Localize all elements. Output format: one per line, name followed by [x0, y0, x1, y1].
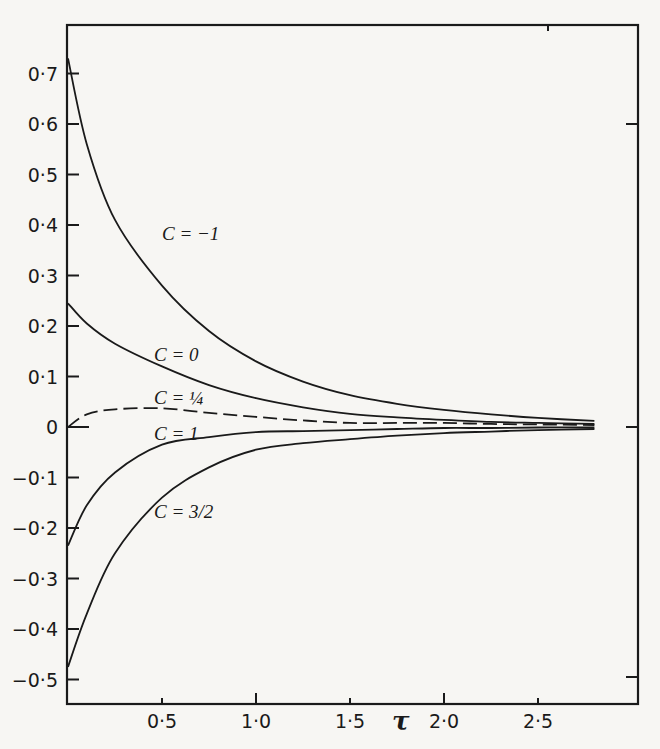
curve-c-three-halves	[68, 429, 594, 667]
line-chart: 0·70·60·50·40·30·20·10−0·1−0·2−0·3−0·4−0…	[0, 0, 660, 749]
curve-label: C = 3/2	[154, 501, 214, 522]
y-tick-label: 0·7	[28, 63, 58, 85]
x-tick-label: 0·5	[147, 710, 177, 732]
curve-c-0	[68, 303, 594, 424]
y-tick-label: −0·1	[12, 467, 58, 489]
curve-labels: C = −1C = 0C = ¼C = 1C = 3/2	[154, 223, 219, 522]
y-tick-label: −0·4	[12, 618, 58, 640]
y-tick-label: 0	[46, 416, 58, 438]
curve-label: C = 0	[154, 344, 199, 365]
curve-c-1	[68, 427, 594, 545]
y-tick-label: 0·4	[28, 214, 58, 236]
y-tick-label: 0·5	[28, 164, 58, 186]
y-tick-label: 0·1	[28, 366, 58, 388]
x-axis-ticks: 0·51·01·52·02·5	[147, 25, 553, 732]
y-tick-label: 0·3	[28, 265, 58, 287]
x-tick-label: 2·0	[429, 710, 459, 732]
y-tick-label: −0·5	[12, 669, 58, 691]
curve-label: C = ¼	[154, 387, 203, 408]
curve-label: C = −1	[162, 223, 219, 244]
y-tick-label: −0·2	[12, 517, 58, 539]
curves	[68, 58, 594, 667]
x-axis-label: τ	[392, 706, 410, 736]
curve-c-minus-1	[68, 58, 594, 421]
plot-frame	[67, 25, 638, 704]
curve-label: C = 1	[154, 423, 199, 444]
y-tick-label: −0·3	[12, 568, 58, 590]
x-tick-label: 1·5	[335, 710, 365, 732]
x-tick-label: 2·5	[523, 710, 553, 732]
y-tick-label: 0·6	[28, 113, 58, 135]
y-tick-label: 0·2	[28, 315, 58, 337]
y-axis-ticks: 0·70·60·50·40·30·20·10−0·1−0·2−0·3−0·4−0…	[12, 63, 638, 691]
x-tick-label: 1·0	[241, 710, 271, 732]
